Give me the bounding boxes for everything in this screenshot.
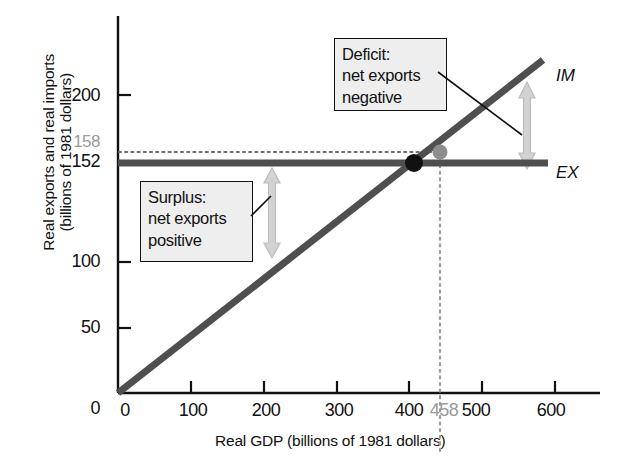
equilibrium-exports-point (405, 154, 423, 172)
deficit-arrow (519, 82, 535, 169)
im-line (118, 60, 543, 393)
surplus-arrow (264, 168, 280, 258)
deficit-leader-line (438, 72, 522, 135)
exports-imports-chart: Real exports and real imports (billions … (0, 0, 618, 466)
x-axis-ticks (191, 381, 555, 393)
imports-at-458-point (433, 145, 448, 160)
y-axis-ticks (118, 95, 131, 328)
plot-graphics (0, 0, 618, 466)
